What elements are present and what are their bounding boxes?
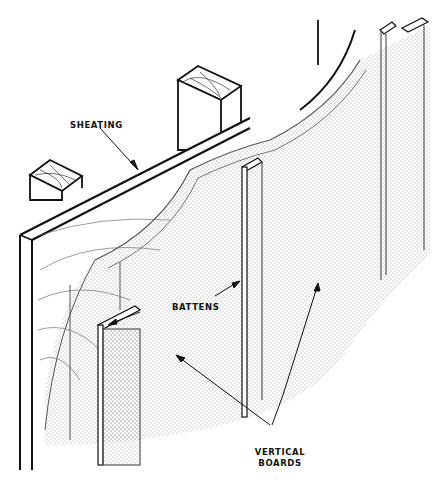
- label-battens: BATTENS: [172, 302, 219, 313]
- label-sheathing: SHEATING: [70, 120, 123, 131]
- batten-front: [98, 306, 140, 465]
- label-vertical-boards-line2: BOARDS: [250, 458, 310, 469]
- label-vertical-boards-line1: VERTICAL: [250, 447, 310, 458]
- stud-left: [30, 160, 82, 200]
- label-vertical-boards: VERTICAL BOARDS: [250, 447, 310, 469]
- wall-diagram: [0, 0, 435, 481]
